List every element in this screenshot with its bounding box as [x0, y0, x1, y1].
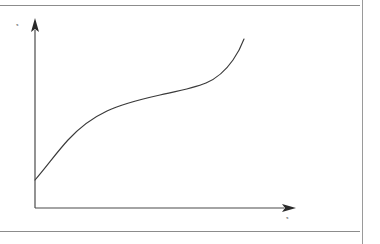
page-rule-bottom	[0, 231, 360, 232]
x-axis-label: x	[286, 215, 289, 220]
plot-svg	[0, 6, 360, 230]
y-axis-arrow-icon	[31, 18, 39, 32]
x-axis-arrow-icon	[282, 204, 296, 212]
curve-path	[35, 39, 244, 180]
page-rule-right	[362, 0, 363, 244]
figure-container: x x	[0, 6, 360, 230]
figure-page: x x	[0, 0, 380, 244]
y-axis-label: x	[16, 22, 19, 27]
